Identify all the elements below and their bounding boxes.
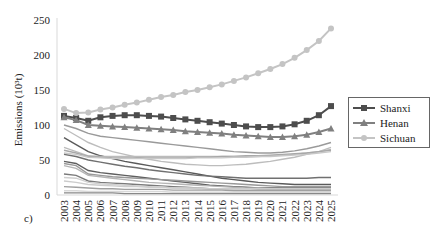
- x-tick-label: 2022: [289, 200, 301, 222]
- circle-marker-icon: [158, 94, 164, 100]
- panel-label: c): [24, 212, 33, 225]
- square-marker-icon: [255, 124, 261, 130]
- x-tick-label: 2015: [204, 200, 216, 223]
- x-tick-label: 2003: [58, 200, 70, 223]
- y-axis: 050100150200250: [34, 14, 58, 201]
- square-marker-icon: [195, 118, 201, 124]
- triangle-marker-icon: [353, 118, 375, 128]
- square-marker-icon: [97, 114, 103, 120]
- square-marker-icon: [134, 112, 140, 118]
- circle-marker-icon: [207, 84, 213, 90]
- circle-marker-icon: [122, 102, 128, 108]
- x-axis: 2003200420052006200720082009201020112012…: [57, 195, 338, 222]
- x-tick-label: 2010: [143, 200, 155, 223]
- x-tick-label: 2016: [216, 200, 228, 223]
- legend-label: Henan: [380, 117, 409, 129]
- circle-marker-icon: [255, 70, 261, 76]
- x-tick-label: 2013: [179, 200, 191, 223]
- circle-marker-icon: [170, 92, 176, 98]
- legend-item-sichuan: Sichuan: [353, 130, 415, 146]
- square-marker-icon: [304, 118, 310, 124]
- x-tick-label: 2019: [252, 200, 264, 223]
- circle-marker-icon: [328, 25, 334, 31]
- y-tick-label: 0: [45, 189, 51, 201]
- legend-label: Sichuan: [380, 132, 415, 144]
- x-tick-label: 2024: [313, 200, 325, 223]
- y-tick-label: 200: [34, 49, 51, 61]
- square-marker-icon: [110, 113, 116, 119]
- square-marker-icon: [158, 114, 164, 120]
- circle-marker-icon: [195, 87, 201, 93]
- x-tick-label: 2017: [228, 200, 240, 223]
- square-marker-icon: [207, 119, 213, 125]
- y-tick-label: 150: [34, 84, 51, 96]
- square-marker-icon: [279, 123, 285, 129]
- x-tick-label: 2020: [264, 200, 276, 223]
- square-marker-icon: [267, 124, 273, 130]
- y-tick-label: 250: [34, 14, 51, 26]
- circle-marker-icon: [243, 74, 249, 80]
- legend-item-henan: Henan: [353, 115, 409, 131]
- circle-marker-icon: [73, 110, 79, 116]
- x-tick-label: 2012: [167, 200, 179, 222]
- background-province-lines: [64, 125, 331, 194]
- square-marker-icon: [353, 103, 375, 113]
- y-tick-label: 50: [39, 154, 51, 166]
- circle-marker-icon: [267, 66, 273, 72]
- x-tick-label: 2007: [107, 200, 119, 223]
- x-tick-label: 2025: [325, 200, 337, 223]
- x-tick-label: 2009: [131, 200, 143, 223]
- circle-marker-icon: [292, 55, 298, 61]
- circle-marker-icon: [219, 81, 225, 87]
- x-tick-label: 2004: [70, 200, 82, 223]
- x-tick-label: 2011: [155, 200, 167, 222]
- x-tick-label: 2018: [240, 200, 252, 223]
- series-line-sichuan: [64, 28, 331, 113]
- square-marker-icon: [122, 112, 128, 118]
- circle-marker-icon: [146, 97, 152, 103]
- circle-marker-icon: [85, 109, 91, 115]
- x-tick-label: 2005: [82, 200, 94, 223]
- square-marker-icon: [231, 122, 237, 128]
- x-tick-label: 2023: [301, 200, 313, 223]
- x-tick-label: 2021: [276, 200, 288, 222]
- province-line: [64, 193, 331, 194]
- legend: Shanxi Henan Sichuan: [348, 97, 430, 148]
- circle-marker-icon: [304, 47, 310, 53]
- square-marker-icon: [243, 123, 249, 129]
- square-marker-icon: [316, 112, 322, 118]
- square-marker-icon: [219, 121, 225, 127]
- circle-marker-icon: [316, 38, 322, 44]
- y-axis-title: Emissions (10³t): [12, 73, 25, 146]
- square-marker-icon: [170, 115, 176, 121]
- legend-label: Shanxi: [380, 102, 411, 114]
- circle-marker-icon: [231, 78, 237, 84]
- circle-marker-icon: [279, 61, 285, 67]
- square-marker-icon: [182, 116, 188, 122]
- square-marker-icon: [328, 103, 334, 109]
- circle-marker-icon: [353, 133, 375, 143]
- circle-marker-icon: [110, 105, 116, 111]
- highlighted-province-lines: [61, 25, 335, 139]
- square-marker-icon: [146, 113, 152, 119]
- x-tick-label: 2006: [94, 200, 106, 223]
- circle-marker-icon: [182, 89, 188, 95]
- y-tick-label: 100: [34, 119, 51, 131]
- circle-marker-icon: [134, 100, 140, 106]
- circle-marker-icon: [61, 106, 67, 112]
- circle-marker-icon: [97, 107, 103, 113]
- x-tick-label: 2014: [192, 200, 204, 223]
- square-marker-icon: [292, 121, 298, 127]
- legend-item-shanxi: Shanxi: [353, 100, 411, 116]
- x-tick-label: 2008: [119, 200, 131, 223]
